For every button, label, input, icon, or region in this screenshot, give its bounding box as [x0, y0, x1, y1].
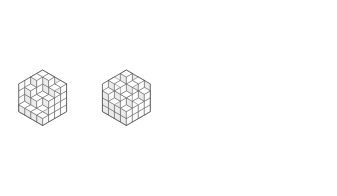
- right-hexagon: [0, 0, 168, 196]
- figure-canvas: [0, 0, 337, 196]
